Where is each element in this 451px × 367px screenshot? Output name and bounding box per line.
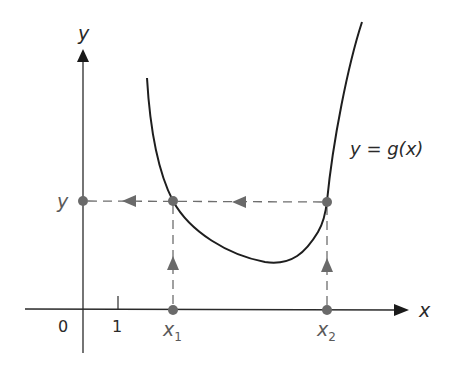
x-axis bbox=[25, 309, 396, 310]
curve-g bbox=[147, 22, 362, 263]
y-axis-arrow-icon bbox=[77, 49, 89, 62]
up-arrow-icon bbox=[321, 258, 333, 272]
level-y-label: y bbox=[56, 190, 69, 212]
x-axis-label: x bbox=[418, 299, 431, 321]
tick-label-1: 1 bbox=[112, 317, 122, 336]
x2-label: x2 bbox=[316, 318, 336, 344]
left-arrow-icon bbox=[122, 195, 136, 207]
up-arrow-icon bbox=[167, 256, 179, 270]
level-lines bbox=[88, 201, 327, 306]
x1-label: x1 bbox=[162, 318, 182, 344]
point-x2-on-axis bbox=[322, 305, 332, 315]
function-graph-diagram: y x 0 1 y x1 x2 y = g(x) bbox=[0, 0, 451, 367]
origin-label: 0 bbox=[58, 317, 68, 336]
points bbox=[78, 196, 332, 315]
point-x1-on-curve bbox=[168, 196, 178, 206]
point-y-on-axis bbox=[78, 196, 88, 206]
point-x1-on-axis bbox=[168, 305, 178, 315]
point-x2-on-curve bbox=[322, 197, 332, 207]
direction-arrows bbox=[122, 195, 333, 272]
curve-label: y = g(x) bbox=[349, 138, 423, 159]
y-axis-label: y bbox=[77, 22, 90, 44]
left-arrow-icon bbox=[232, 196, 246, 208]
x-axis-arrow-icon bbox=[394, 304, 409, 316]
